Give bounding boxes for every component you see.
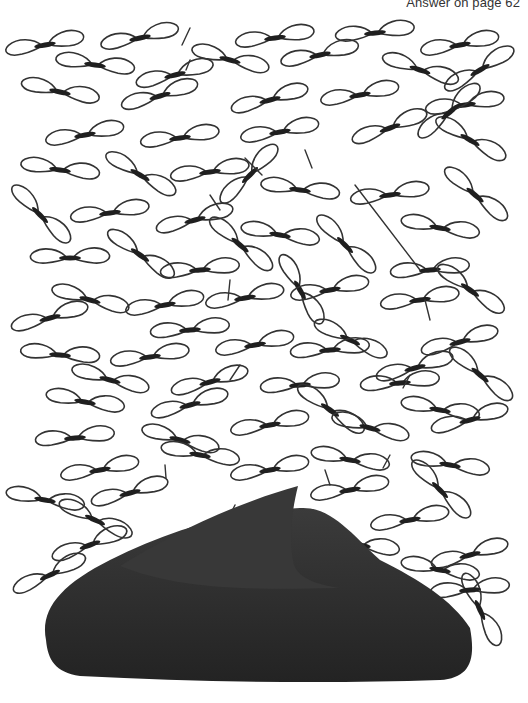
- wing-shape: [369, 503, 450, 532]
- wing-shape: [103, 146, 179, 199]
- wing-shape: [441, 162, 511, 225]
- wing-shape: [69, 198, 150, 224]
- wing-shape: [424, 90, 505, 116]
- loose-stroke: [182, 28, 190, 45]
- wing-shape: [119, 75, 199, 111]
- wing-shape: [419, 28, 500, 57]
- wing-shape: [55, 50, 136, 76]
- wing-shape: [59, 453, 140, 482]
- wing-shape: [109, 342, 190, 368]
- wing-shape: [140, 420, 220, 455]
- wing-shape: [57, 494, 135, 541]
- wing-shape: [260, 175, 341, 201]
- wing-shape: [20, 155, 101, 181]
- wing-shape: [206, 212, 276, 275]
- wing-shape: [349, 105, 429, 146]
- wing-shape: [240, 218, 321, 247]
- wing-shape: [310, 443, 391, 472]
- wing-shape: [169, 362, 249, 397]
- wing-shape: [313, 210, 380, 277]
- wing-shape: [150, 317, 230, 339]
- wing-shape: [20, 342, 100, 364]
- wing-shape: [379, 285, 460, 311]
- loose-stroke: [165, 465, 166, 478]
- wing-shape: [20, 74, 101, 105]
- loose-stroke: [230, 365, 240, 380]
- wing-shape: [45, 385, 126, 414]
- wing-shape: [239, 115, 320, 144]
- loose-stroke: [228, 280, 230, 300]
- wing-shape: [44, 118, 125, 147]
- wing-shape: [50, 280, 130, 315]
- loose-stroke: [210, 195, 220, 210]
- wing-shape: [139, 123, 220, 149]
- wing-shape: [35, 425, 115, 447]
- loose-stroke: [305, 150, 312, 168]
- wing-shape: [234, 23, 315, 49]
- wing-shape: [229, 80, 309, 115]
- wing-shape: [309, 473, 390, 502]
- wing-shape: [99, 20, 180, 51]
- loose-stroke: [186, 60, 190, 70]
- wing-shape: [229, 408, 310, 437]
- loose-stroke: [425, 300, 430, 320]
- wing-shape: [390, 257, 470, 279]
- wing-shape: [124, 288, 205, 317]
- wing-shape: [70, 360, 150, 395]
- wing-shape: [435, 259, 509, 317]
- loose-stroke: [325, 470, 330, 485]
- wing-shape: [160, 438, 241, 467]
- wing-shape: [319, 78, 400, 107]
- wing-shape: [190, 40, 270, 75]
- wing-shape: [149, 385, 229, 420]
- wing-shape: [446, 342, 516, 405]
- wing-shape: [89, 473, 169, 508]
- puzzle-illustration: [0, 0, 528, 703]
- wing-shape: [5, 483, 86, 512]
- wing-shape: [8, 180, 75, 247]
- wing-shape: [30, 248, 109, 263]
- wing-shape: [214, 328, 295, 357]
- wing-shape: [154, 200, 234, 235]
- wing-shape: [9, 298, 89, 333]
- wing-shape: [134, 56, 214, 90]
- wing-shape: [204, 281, 285, 310]
- wing-shape: [400, 393, 481, 422]
- wing-shape: [229, 453, 310, 482]
- wing-shape: [360, 370, 440, 392]
- wing-shape: [410, 448, 491, 477]
- wing-shape: [419, 322, 499, 357]
- wing-shape: [260, 372, 340, 394]
- wing-shape: [374, 348, 454, 383]
- wing-shape: [330, 408, 410, 443]
- wing-shape: [400, 211, 481, 240]
